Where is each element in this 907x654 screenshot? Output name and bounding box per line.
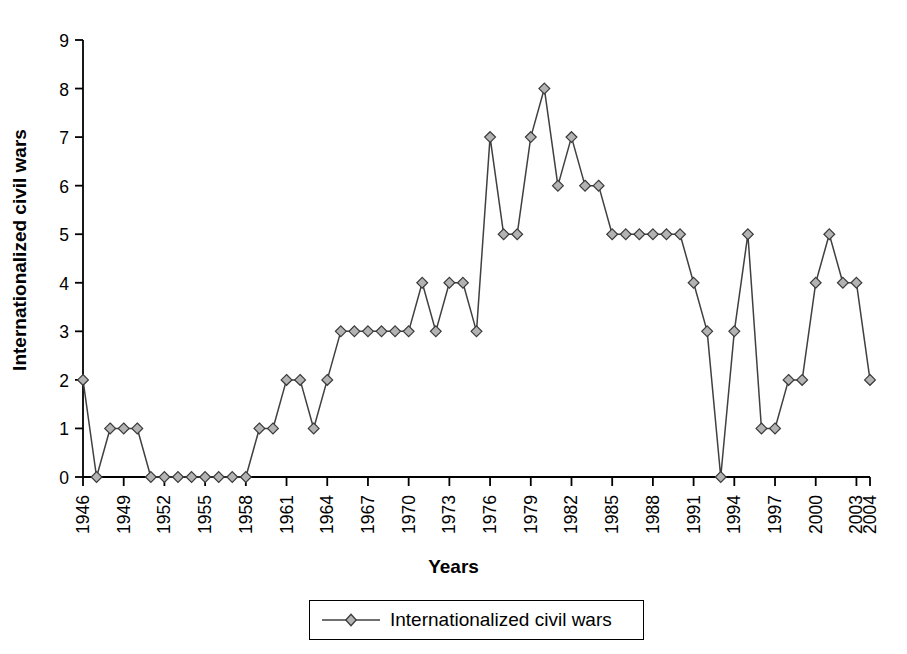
data-point-marker <box>444 277 455 288</box>
data-point-marker <box>308 423 319 434</box>
x-axis-tick-label: 1976 <box>480 495 500 534</box>
x-axis-tick-label: 1964 <box>317 495 337 534</box>
y-axis-tick-label: 8 <box>59 80 69 100</box>
x-axis-tick-label: 1949 <box>114 495 134 534</box>
data-point-marker <box>458 277 469 288</box>
x-axis-tick-label: 2004 <box>860 495 880 534</box>
data-point-marker <box>661 229 672 240</box>
x-axis-tick-label: 1985 <box>602 495 622 534</box>
data-point-marker <box>268 423 279 434</box>
x-axis-tick-label: 1967 <box>358 495 378 534</box>
y-axis-tick-label: 7 <box>59 128 69 148</box>
data-point-marker <box>702 326 713 337</box>
y-axis-tick-label: 5 <box>59 225 69 245</box>
data-point-marker <box>485 132 496 143</box>
data-point-marker <box>593 180 604 191</box>
x-axis-tick-label: 1955 <box>195 495 215 534</box>
data-point-marker <box>173 472 184 483</box>
x-axis-tick-label: 1982 <box>561 495 581 534</box>
y-axis-tick-label: 1 <box>59 419 69 439</box>
data-point-marker <box>376 326 387 337</box>
x-axis-tick-label: 1997 <box>765 495 785 534</box>
data-point-marker <box>742 229 753 240</box>
x-axis-tick-label: 1946 <box>73 495 93 534</box>
data-point-marker <box>512 229 523 240</box>
y-axis-tick-label: 6 <box>59 177 69 197</box>
data-point-marker <box>78 374 89 385</box>
data-point-marker <box>851 277 862 288</box>
x-axis-tick-label: 1979 <box>521 495 541 534</box>
data-point-marker <box>525 132 536 143</box>
data-point-marker <box>865 374 876 385</box>
data-point-marker <box>281 374 292 385</box>
data-point-marker <box>227 472 238 483</box>
data-point-marker <box>200 472 211 483</box>
data-point-marker <box>254 423 265 434</box>
data-point-marker <box>213 472 224 483</box>
data-point-marker <box>91 472 102 483</box>
data-line <box>83 89 870 477</box>
data-point-marker <box>824 229 835 240</box>
x-axis-tick-label: 2000 <box>806 495 826 534</box>
data-point-marker <box>417 277 428 288</box>
y-axis-tick-label: 9 <box>59 31 69 51</box>
chart-legend: Internationalized civil wars <box>309 600 644 640</box>
data-point-marker <box>363 326 374 337</box>
data-point-marker <box>688 277 699 288</box>
x-axis-tick-label: 1994 <box>724 495 744 534</box>
data-point-marker <box>607 229 618 240</box>
data-point-marker <box>566 132 577 143</box>
legend-label: Internationalized civil wars <box>390 609 612 631</box>
data-point-marker <box>729 326 740 337</box>
y-axis-tick-label: 0 <box>59 468 69 488</box>
data-point-marker <box>539 83 550 94</box>
x-axis-tick-label: 1961 <box>277 495 297 534</box>
data-point-marker <box>471 326 482 337</box>
data-point-marker <box>118 423 129 434</box>
y-axis-tick-label: 4 <box>59 274 69 294</box>
data-point-marker <box>322 374 333 385</box>
y-axis-tick-label: 2 <box>59 371 69 391</box>
chart-figure: Internationalized civil wars 01234567891… <box>0 0 907 654</box>
data-point-marker <box>498 229 509 240</box>
y-axis-tick-label: 3 <box>59 322 69 342</box>
data-point-marker <box>145 472 156 483</box>
data-point-marker <box>756 423 767 434</box>
data-point-marker <box>430 326 441 337</box>
data-point-marker <box>132 423 143 434</box>
data-point-marker <box>105 423 116 434</box>
data-point-marker <box>715 472 726 483</box>
x-axis-tick-label: 1958 <box>236 495 256 534</box>
data-point-marker <box>240 472 251 483</box>
data-point-marker <box>335 326 346 337</box>
data-point-marker <box>783 374 794 385</box>
x-axis-tick-label: 1988 <box>643 495 663 534</box>
x-axis-title: Years <box>0 556 907 578</box>
data-point-marker <box>553 180 564 191</box>
data-point-marker <box>770 423 781 434</box>
legend-marker-icon <box>322 611 380 629</box>
line-chart-plot: 0123456789194619491952195519581961196419… <box>0 0 907 560</box>
data-point-marker <box>675 229 686 240</box>
data-point-marker <box>403 326 414 337</box>
x-axis-tick-label: 1973 <box>439 495 459 534</box>
data-point-marker <box>810 277 821 288</box>
data-point-marker <box>390 326 401 337</box>
x-axis-tick-label: 1952 <box>154 495 174 534</box>
data-point-marker <box>349 326 360 337</box>
data-point-marker <box>797 374 808 385</box>
data-point-marker <box>580 180 591 191</box>
x-axis-tick-label: 1991 <box>684 495 704 534</box>
data-point-marker <box>295 374 306 385</box>
data-point-marker <box>620 229 631 240</box>
data-point-marker <box>647 229 658 240</box>
data-point-marker <box>837 277 848 288</box>
x-axis-title-text: Years <box>428 556 479 577</box>
data-point-marker <box>186 472 197 483</box>
data-point-marker <box>159 472 170 483</box>
x-axis-tick-label: 1970 <box>399 495 419 534</box>
data-point-marker <box>634 229 645 240</box>
